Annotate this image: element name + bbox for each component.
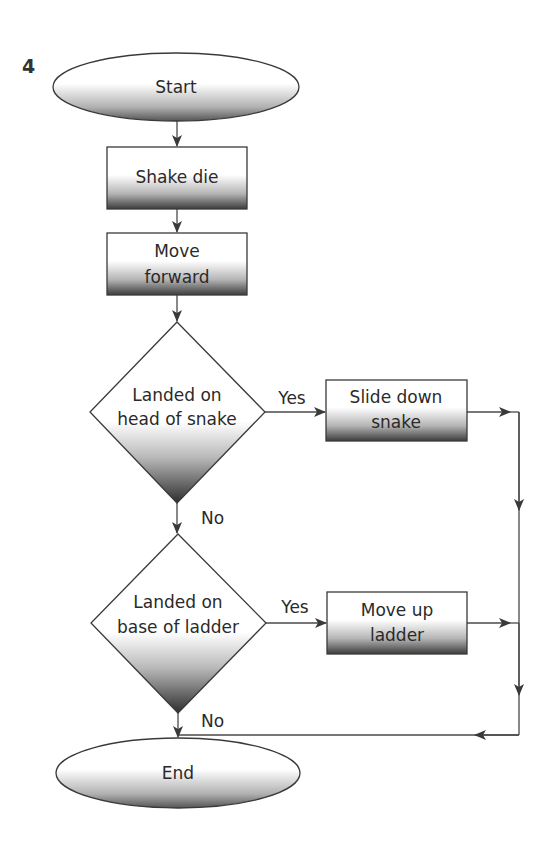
ladder-no-label: No (201, 711, 224, 731)
snake-no-label: No (201, 508, 224, 528)
svg-text:Landed on: Landed on (132, 385, 221, 405)
figure-number: 4 (22, 55, 35, 77)
start-node: Start (53, 53, 299, 121)
svg-text:Landed on: Landed on (133, 592, 222, 612)
shake-die-node: Shake die (107, 147, 247, 209)
end-node: End (56, 738, 300, 808)
svg-text:End: End (162, 763, 194, 783)
slide-down-node: Slide down snake (326, 380, 467, 441)
svg-text:Move up: Move up (361, 600, 434, 620)
svg-text:Shake die: Shake die (135, 167, 218, 187)
snake-yes-label: Yes (277, 388, 306, 408)
svg-text:forward: forward (144, 267, 209, 287)
svg-text:Move: Move (154, 241, 200, 261)
move-forward-node: Move forward (107, 233, 247, 295)
svg-text:base of ladder: base of ladder (117, 617, 239, 637)
ladder-yes-label: Yes (280, 597, 309, 617)
svg-text:Start: Start (155, 77, 197, 97)
decision-ladder-node: Landed on base of ladder (91, 534, 266, 713)
svg-text:Slide down: Slide down (350, 387, 443, 407)
svg-text:snake: snake (371, 412, 421, 432)
flowchart: 4 Start Shake die Move forward La (0, 0, 551, 847)
move-up-ladder-node: Move up ladder (327, 592, 467, 654)
decision-snake-node: Landed on head of snake (90, 322, 265, 503)
svg-text:head of snake: head of snake (117, 409, 236, 429)
svg-text:ladder: ladder (370, 625, 424, 645)
